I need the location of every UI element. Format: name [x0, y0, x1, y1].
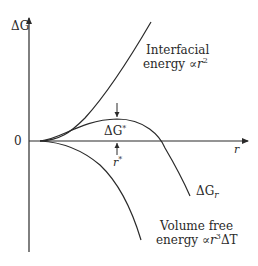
interfacial-label-line2: energy ∝r2 — [143, 56, 208, 71]
interfacial-energy-curve — [40, 22, 151, 141]
critical-energy-label: ΔG* — [104, 124, 126, 138]
origin-label: 0 — [14, 134, 22, 148]
volume-free-energy-curve — [40, 141, 141, 240]
total-free-energy-label: ΔGr — [196, 184, 219, 200]
critical-radius-label: r* — [113, 155, 122, 169]
interfacial-label-line1: Interfacial — [146, 43, 209, 57]
volume-label-line1: Volume free — [159, 219, 233, 233]
y-axis-label: ΔG — [11, 19, 29, 33]
nucleation-energy-diagram: ΔG r 0 Interfacial energy ∝r2 ΔG* r* ΔGr… — [0, 0, 258, 266]
x-axis-label: r — [234, 143, 240, 156]
volume-label-line2: energy ∝r3ΔT — [156, 232, 238, 247]
